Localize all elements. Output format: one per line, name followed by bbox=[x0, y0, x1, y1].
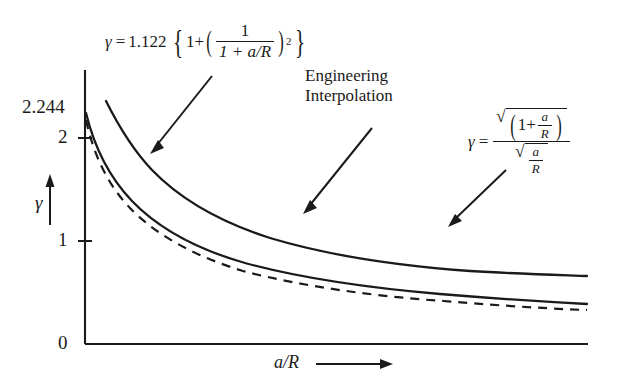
equation-left-one-plus: 1+ bbox=[186, 33, 204, 50]
x-axis-title: a/R bbox=[274, 352, 299, 373]
y-tick-label-2: 2 bbox=[58, 126, 68, 148]
annotation-arrow-exact-formula bbox=[150, 76, 212, 154]
equation-right-numerator: √ ( 1+ a R ) bbox=[493, 108, 569, 140]
y-tick-label-1: 1 bbox=[58, 229, 68, 251]
x-axis-arrow-icon bbox=[316, 359, 393, 369]
equation-right-num-one-plus: 1+ bbox=[518, 116, 536, 134]
equation-right-num-inner-fraction: a R bbox=[538, 110, 552, 140]
equation-left-frac-numerator: 1 bbox=[238, 22, 253, 40]
annotation-engineering-interpolation: Engineering Interpolation bbox=[305, 66, 393, 106]
equation-left-brace-close: } bbox=[295, 28, 305, 55]
annotation-line-1: Engineering bbox=[305, 66, 393, 86]
y-tick-label-0: 0 bbox=[58, 332, 68, 354]
equation-exact-formula: γ = 1.122 { 1+ ( 1 1 + a/R ) 2 } bbox=[105, 22, 308, 61]
equation-right-num-paren-close: ) bbox=[556, 113, 562, 137]
y-axis-arrow-icon bbox=[46, 174, 55, 225]
radical-icon-denominator: √ bbox=[515, 143, 524, 175]
annotation-arrow-engineering-interpolation bbox=[303, 128, 372, 214]
equation-right-num-paren-open: ( bbox=[510, 113, 516, 137]
equation-left-equals: = bbox=[116, 33, 126, 50]
equation-left-coefficient: 1.122 bbox=[128, 33, 166, 50]
equation-left-gamma: γ bbox=[105, 33, 112, 50]
equation-right-fraction: √ ( 1+ a R ) √ bbox=[493, 108, 569, 176]
equation-left-paren-open: ( bbox=[206, 29, 212, 53]
figure-container: 2.244 2 1 0 γ a/R Engineering Interpolat… bbox=[0, 0, 622, 389]
equation-left-paren-close: ) bbox=[278, 29, 284, 53]
equation-left-fraction: 1 1 + a/R bbox=[216, 22, 274, 61]
equation-right-num-inner-denominator: R bbox=[538, 127, 552, 141]
equation-right-denominator-radicand: a R bbox=[525, 143, 548, 175]
y-axis-title: γ bbox=[35, 192, 43, 214]
equation-right-denominator: √ a R bbox=[512, 143, 550, 175]
equation-left-frac-denominator: 1 + a/R bbox=[216, 43, 274, 61]
equation-sqrt-formula: γ = √ ( 1+ a R ) bbox=[468, 108, 572, 176]
plot-svg bbox=[0, 0, 622, 389]
equation-right-den-inner-fraction: a R bbox=[529, 145, 543, 175]
equation-right-den-inner-denominator: R bbox=[529, 162, 543, 176]
equation-right-num-inner-numerator: a bbox=[538, 110, 551, 124]
y-tick-label-2244: 2.244 bbox=[22, 96, 65, 118]
equation-left-brace-open: { bbox=[173, 28, 183, 55]
equation-right-equals: = bbox=[479, 133, 489, 150]
equation-right-numerator-radicand: ( 1+ a R ) bbox=[506, 108, 567, 140]
equation-right-gamma: γ bbox=[468, 133, 475, 150]
equation-right-frac-bar bbox=[493, 141, 569, 142]
annotation-line-2: Interpolation bbox=[305, 86, 393, 106]
equation-right-den-inner-numerator: a bbox=[529, 145, 542, 159]
annotation-arrow-sqrt-formula bbox=[448, 170, 506, 227]
radical-icon-numerator: √ bbox=[496, 108, 505, 140]
equation-left-exponent: 2 bbox=[286, 36, 292, 47]
